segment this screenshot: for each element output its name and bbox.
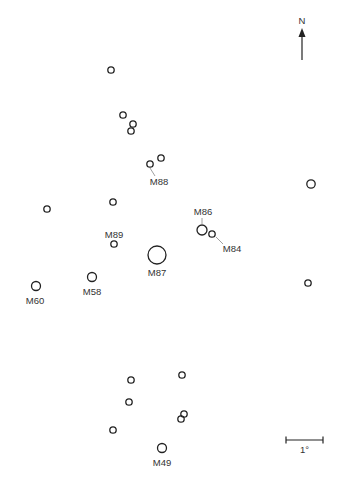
galaxy-marker <box>158 155 164 161</box>
galaxy-marker <box>130 121 136 127</box>
galaxy-m60 <box>32 282 41 291</box>
label-m88: M88 <box>150 176 168 187</box>
galaxy-marker <box>126 399 132 405</box>
galaxy-marker <box>110 199 116 205</box>
label-m58: M58 <box>83 286 101 297</box>
galaxy-marker <box>108 67 114 73</box>
label-m89: M89 <box>105 229 123 240</box>
galaxy-marker <box>44 206 50 212</box>
galaxy-m84 <box>209 231 215 237</box>
galaxy-marker <box>305 280 311 286</box>
north-label: N <box>299 15 306 26</box>
galaxy-marker <box>179 372 185 378</box>
galaxy-m58 <box>88 273 97 282</box>
galaxy-marker <box>110 427 116 433</box>
galaxy-marker <box>147 161 153 167</box>
label-m84: M84 <box>223 243 241 254</box>
scale-bar: 1° <box>286 437 323 456</box>
arrowhead-icon <box>299 28 306 37</box>
label-m49: M49 <box>153 457 171 468</box>
scale-bar-label: 1° <box>300 444 309 455</box>
galaxy-marker <box>128 128 134 134</box>
galaxy-marker <box>120 112 126 118</box>
galaxy-labels: M88M86M84M89M87M58M60M49 <box>26 168 241 468</box>
label-m87: M87 <box>148 267 166 278</box>
label-m60: M60 <box>26 295 44 306</box>
galaxy-m86 <box>197 225 207 235</box>
sky-chart: N M88M86M84M89M87M58M60M49 1° <box>0 0 340 478</box>
label-m86: M86 <box>194 206 212 217</box>
leader-line-m88 <box>150 168 155 176</box>
galaxy-marker <box>128 377 134 383</box>
galaxy-m89 <box>111 241 117 247</box>
galaxy-marker <box>307 180 315 188</box>
galaxy-m49 <box>158 444 167 453</box>
galaxy-markers <box>32 67 316 453</box>
galaxy-marker <box>178 416 184 422</box>
north-compass: N <box>299 15 306 60</box>
galaxy-m87 <box>148 246 166 264</box>
